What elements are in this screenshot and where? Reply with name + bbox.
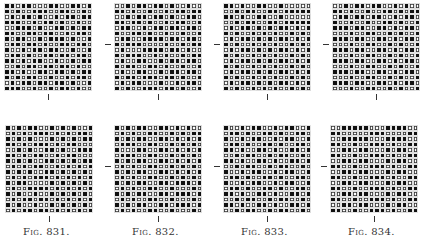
center-tick-mark	[158, 94, 159, 100]
weave-diagram-834-top	[332, 3, 420, 91]
center-tick-mark	[267, 94, 268, 100]
side-tick-mark	[321, 166, 327, 167]
center-tick-mark	[374, 216, 375, 222]
side-tick-mark	[323, 44, 329, 45]
lowered-cell	[197, 208, 203, 214]
lowered-cell	[306, 86, 312, 92]
side-tick-mark	[214, 44, 220, 45]
center-tick-mark	[158, 216, 159, 222]
figure-caption: Fig. 832.	[132, 226, 179, 237]
side-tick-mark	[214, 166, 220, 167]
figure-caption: Fig. 834.	[348, 226, 395, 237]
raised-cell	[197, 86, 203, 92]
side-tick-mark	[105, 166, 111, 167]
lowered-cell	[306, 208, 312, 214]
raised-cell	[88, 208, 94, 214]
figure-caption: Fig. 833.	[241, 226, 288, 237]
center-tick-mark	[267, 216, 268, 222]
weave-diagram-831-bottom	[5, 125, 93, 213]
weave-diagram-832-bottom	[114, 125, 202, 213]
weave-diagram-832-top	[114, 3, 202, 91]
raised-cell	[413, 208, 419, 214]
weave-diagram-831-top	[4, 3, 92, 91]
lowered-cell	[87, 86, 93, 92]
figure-caption: Fig. 831.	[23, 226, 70, 237]
side-tick-mark	[105, 44, 111, 45]
weave-diagram-834-bottom	[330, 125, 418, 213]
weave-diagram-833-top	[223, 3, 311, 91]
center-tick-mark	[48, 94, 49, 100]
raised-cell	[415, 86, 421, 92]
center-tick-mark	[376, 94, 377, 100]
center-tick-mark	[49, 216, 50, 222]
weave-diagram-833-bottom	[223, 125, 311, 213]
